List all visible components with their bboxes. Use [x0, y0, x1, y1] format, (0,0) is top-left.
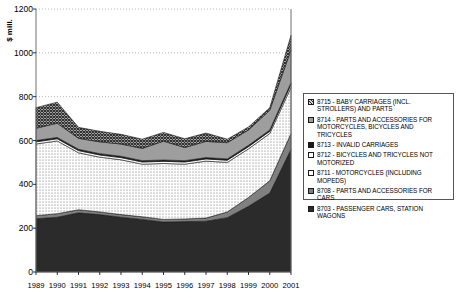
legend-swatch-8714 — [308, 117, 314, 123]
legend-item-8714[interactable]: 8714 - PARTS AND ACCESSORIES FOR MOTORCY… — [308, 116, 450, 138]
x-tick-label: 1994 — [131, 281, 153, 290]
x-tick-label: 1989 — [25, 281, 47, 290]
chart-legend: 8715 - BABY CARRIAGES (INCL. STROLLERS) … — [303, 93, 454, 200]
legend-item-8713[interactable]: 8713 - INVALID CARRIAGES — [308, 141, 450, 148]
legend-item-8712[interactable]: 8712 - BICYCLES AND TRICYCLES NOT MOTORI… — [308, 151, 450, 166]
x-tick-label: 1993 — [110, 281, 132, 290]
legend-label-8712: 8712 - BICYCLES AND TRICYCLES NOT MOTORI… — [317, 151, 450, 166]
x-tick-label: 2001 — [280, 281, 302, 290]
legend-item-8708[interactable]: 8708 - PARTS AND ACCESSORIES FOR CARS — [308, 187, 450, 202]
x-tick-label: 2000 — [259, 281, 281, 290]
legend-item-8703[interactable]: 8703 - PASSENGER CARS, STATION WAGONS — [308, 205, 450, 220]
legend-label-8713: 8713 - INVALID CARRIAGES — [317, 141, 398, 148]
x-tick-label: 1997 — [195, 281, 217, 290]
legend-swatch-8713 — [308, 142, 314, 148]
x-tick-label: 1998 — [216, 281, 238, 290]
x-tick-label: 1990 — [46, 281, 68, 290]
legend-label-8708: 8708 - PARTS AND ACCESSORIES FOR CARS — [317, 187, 450, 202]
x-tick-label: 1991 — [68, 281, 90, 290]
legend-label-8711: 8711 - MOTORCYCLES (INCLUDING MOPEDS) — [317, 169, 450, 184]
legend-label-8715: 8715 - BABY CARRIAGES (INCL. STROLLERS) … — [317, 98, 450, 113]
x-tick-label: 1999 — [238, 281, 260, 290]
x-tick-label: 1992 — [89, 281, 111, 290]
legend-swatch-8708 — [308, 188, 314, 194]
legend-item-8711[interactable]: 8711 - MOTORCYCLES (INCLUDING MOPEDS) — [308, 169, 450, 184]
legend-label-8703: 8703 - PASSENGER CARS, STATION WAGONS — [317, 205, 450, 220]
legend-swatch-8712 — [308, 152, 314, 158]
x-tick-label: 1995 — [153, 281, 175, 290]
legend-swatch-8715 — [308, 99, 314, 105]
legend-swatch-8703 — [308, 206, 314, 212]
legend-item-8715[interactable]: 8715 - BABY CARRIAGES (INCL. STROLLERS) … — [308, 98, 450, 113]
stacked-area-chart: $ mill. 020040060080010001200 1989199019… — [0, 0, 460, 307]
x-tick-label: 1996 — [174, 281, 196, 290]
legend-label-8714: 8714 - PARTS AND ACCESSORIES FOR MOTORCY… — [317, 116, 450, 138]
legend-swatch-8711 — [308, 170, 314, 176]
